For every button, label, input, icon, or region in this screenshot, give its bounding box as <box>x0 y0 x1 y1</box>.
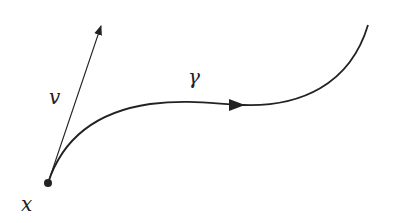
curve-gamma <box>48 25 368 183</box>
diagram-canvas: v x γ <box>0 0 393 223</box>
label-v: v <box>49 85 61 109</box>
point-x <box>44 179 52 187</box>
label-gamma: γ <box>188 65 200 89</box>
label-x: x <box>21 192 32 216</box>
curve-direction-arrow-icon <box>229 99 245 111</box>
